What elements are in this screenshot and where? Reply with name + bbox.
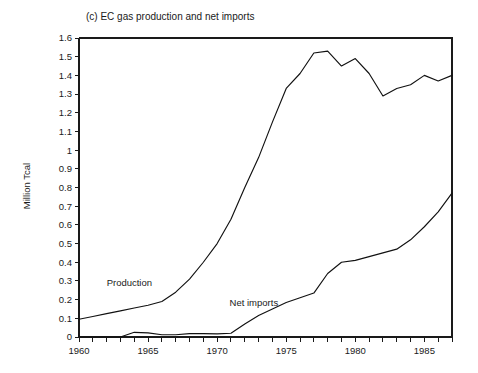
y-tick-label: 0.9	[59, 163, 72, 174]
y-tick-label: 1.6	[59, 32, 72, 43]
x-tick-label: 1960	[68, 345, 89, 356]
y-tick-label: 0.7	[59, 201, 72, 212]
x-axis-ticks	[79, 337, 452, 342]
y-tick-label: 0.5	[59, 238, 72, 249]
series-label-net-imports: Net imports	[230, 297, 279, 308]
y-tick-label: 0	[67, 331, 72, 342]
y-tick-label: 1.3	[59, 88, 72, 99]
y-tick-label: 1.2	[59, 107, 72, 118]
y-tick-label: 0.4	[59, 257, 72, 268]
x-axis-tick-labels: 196019651970197519801985	[68, 345, 435, 356]
y-tick-label: 1.1	[59, 126, 72, 137]
x-tick-label: 1970	[207, 345, 228, 356]
y-tick-label: 0.2	[59, 294, 72, 305]
y-tick-label: 1.5	[59, 51, 72, 62]
y-tick-label: 1.4	[59, 70, 72, 81]
y-axis-tick-labels: 00.10.20.30.40.50.60.70.80.911.11.21.31.…	[59, 32, 72, 342]
y-tick-label: 0.8	[59, 182, 72, 193]
x-tick-label: 1985	[414, 345, 435, 356]
x-tick-label: 1965	[138, 345, 159, 356]
chart-figure: 00.10.20.30.40.50.60.70.80.911.11.21.31.…	[0, 0, 478, 373]
y-tick-label: 0.1	[59, 313, 72, 324]
y-axis-title: Million Tcal	[21, 163, 32, 209]
ec-gas-line-chart: 00.10.20.30.40.50.60.70.80.911.11.21.31.…	[0, 0, 478, 373]
plot-background	[79, 38, 452, 337]
y-tick-label: 0.6	[59, 219, 72, 230]
x-tick-label: 1975	[276, 345, 297, 356]
y-tick-label: 1	[67, 145, 72, 156]
chart-title: (c) EC gas production and net imports	[86, 11, 254, 22]
y-axis-ticks	[75, 38, 79, 337]
y-tick-label: 0.3	[59, 275, 72, 286]
series-label-production: Production	[107, 277, 152, 288]
x-tick-label: 1980	[345, 345, 366, 356]
